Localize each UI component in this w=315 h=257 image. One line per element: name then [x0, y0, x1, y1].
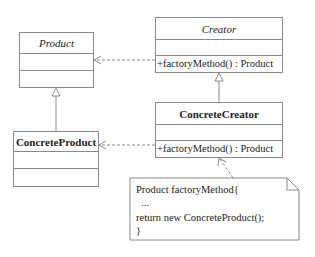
note-anchor-line — [220, 159, 233, 178]
generalization-triangle-icon — [215, 73, 223, 81]
operation: +factoryMethod() : Product — [157, 142, 273, 155]
divider — [156, 140, 282, 141]
divider — [156, 124, 282, 125]
class-name: ConcreteProduct — [14, 135, 98, 149]
operation: +factoryMethod() : Product — [157, 57, 273, 70]
class-name: Product — [20, 36, 93, 50]
class-creator[interactable]: Creator +factoryMethod() : Product — [155, 17, 283, 73]
class-concrete-creator[interactable]: ConcreteCreator +factoryMethod() : Produ… — [155, 102, 283, 158]
divider — [20, 70, 93, 71]
divider — [156, 39, 282, 40]
note-line: ... — [136, 196, 149, 209]
divider — [14, 151, 98, 152]
class-name: ConcreteCreator — [156, 107, 282, 121]
note-line: } — [136, 224, 141, 237]
divider — [156, 55, 282, 56]
note-line: Product factoryMethod{ — [136, 183, 239, 196]
divider — [20, 53, 93, 54]
class-name: Creator — [156, 22, 282, 36]
divider — [14, 168, 98, 169]
note-line: return new ConcreteProduct(); — [136, 211, 264, 224]
generalization-triangle-icon — [52, 88, 60, 96]
arrowhead-open-icon — [218, 158, 226, 166]
class-product[interactable]: Product — [19, 32, 94, 88]
class-concrete-product[interactable]: ConcreteProduct — [13, 131, 99, 187]
